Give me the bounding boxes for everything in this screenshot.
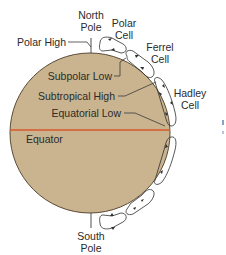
equatorial-low-label: Equatorial Low (52, 107, 122, 119)
edge-mark (222, 131, 224, 134)
subtropical-high-label: Subtropical High (38, 90, 115, 102)
polar-cell-label-line1: Polar (112, 17, 137, 29)
hadley-cell-label-line1: Hadley (174, 87, 207, 99)
ferrel-cell-label-line1: Ferrel (146, 41, 173, 53)
south-pole-label-line2: Pole (80, 242, 101, 254)
edge-mark (222, 120, 224, 125)
north-pole-label-line2: Pole (80, 21, 101, 33)
atmospheric-circulation-diagram: North Pole Polar Cell Ferrel Cell Hadley… (0, 0, 226, 255)
polar-cell-label-line2: Cell (115, 29, 133, 41)
hadley-cell-label-line2: Cell (181, 99, 199, 111)
equator-label: Equator (26, 133, 63, 145)
polar-high-leader (68, 42, 91, 47)
south-pole-label-line1: South (77, 230, 105, 242)
north-pole-label-line1: North (78, 9, 104, 21)
ferrel-cell-label-line2: Cell (151, 53, 169, 65)
subpolar-low-label: Subpolar Low (48, 70, 113, 82)
polar-high-label: Polar High (17, 36, 66, 48)
